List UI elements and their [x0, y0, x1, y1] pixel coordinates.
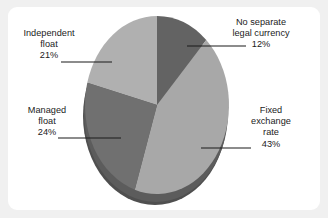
label-line-2: exchange	[240, 116, 302, 127]
label-line-1: Fixed	[240, 105, 302, 116]
label-value: 43%	[240, 139, 302, 150]
label-line-1: No separate	[224, 17, 298, 28]
label-line-3: rate	[240, 127, 302, 138]
label-line-2: float	[16, 116, 78, 127]
slice-label-independent-float: Independent float 21%	[10, 28, 88, 62]
label-line-2: float	[10, 39, 88, 50]
pie-chart-figure: No separate legal currency 12% Fixed exc…	[0, 0, 328, 218]
label-value: 21%	[10, 50, 88, 61]
slice-label-no-separate-legal-currency: No separate legal currency 12%	[224, 17, 298, 51]
label-line-2: legal currency	[224, 28, 298, 39]
label-line-1: Managed	[16, 105, 78, 116]
slice-label-managed-float: Managed float 24%	[16, 105, 78, 139]
label-value: 24%	[16, 127, 78, 138]
label-line-1: Independent	[10, 28, 88, 39]
label-value: 12%	[224, 39, 298, 50]
pie-slices	[85, 16, 229, 194]
slice-label-fixed-exchange-rate: Fixed exchange rate 43%	[240, 105, 302, 150]
